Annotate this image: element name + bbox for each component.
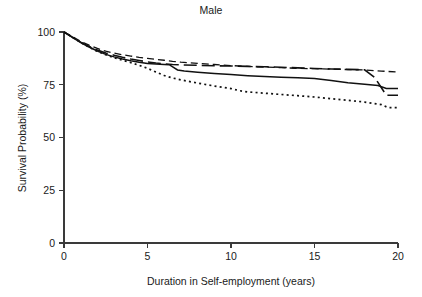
x-tick-label: 0 bbox=[61, 250, 67, 262]
y-tick-label: 0 bbox=[49, 237, 55, 249]
x-axis-title: Duration in Self-employment (years) bbox=[147, 275, 315, 287]
x-tick-label: 20 bbox=[392, 250, 404, 262]
x-axis: 05101520 bbox=[61, 243, 404, 262]
y-tick-label: 25 bbox=[43, 184, 55, 196]
x-tick-label: 5 bbox=[145, 250, 151, 262]
chart-title: Male bbox=[200, 4, 223, 16]
x-tick-label: 15 bbox=[309, 250, 321, 262]
y-axis: 0255075100 bbox=[37, 26, 64, 249]
series-container bbox=[64, 32, 398, 108]
y-tick-label: 75 bbox=[43, 79, 55, 91]
y-tick-label: 100 bbox=[37, 26, 55, 38]
survival-chart-figure: Male 0255075100 05101520 Duration in Sel… bbox=[0, 0, 422, 297]
series-long-dashed-curve bbox=[64, 32, 398, 95]
series-solid-curve bbox=[64, 32, 398, 89]
x-tick-label: 10 bbox=[225, 250, 237, 262]
y-axis-title: Survival Probability (%) bbox=[16, 84, 28, 193]
y-tick-label: 50 bbox=[43, 131, 55, 143]
chart-canvas: Male 0255075100 05101520 Duration in Sel… bbox=[0, 0, 422, 297]
